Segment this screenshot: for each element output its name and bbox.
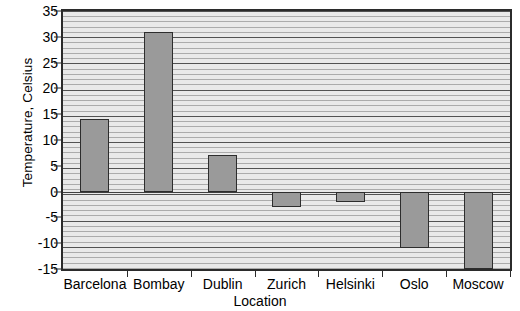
x-axis-tick-mark (382, 271, 383, 277)
y-axis-tick-mark (54, 165, 61, 166)
x-axis-tick-mark (191, 271, 192, 277)
y-axis-tick-mark (54, 191, 61, 192)
x-axis-tick-mark (127, 271, 128, 277)
y-axis-tick-label: -5 (18, 209, 58, 225)
y-axis-tick-label: 30 (18, 29, 58, 45)
bar (272, 192, 301, 207)
y-axis-tick-label: 25 (18, 55, 58, 71)
y-axis-tick-label: -15 (18, 261, 58, 277)
y-axis-tick-mark (54, 36, 61, 37)
y-axis-tick-mark (54, 88, 61, 89)
y-axis-tick-mark (54, 11, 61, 12)
y-axis-tick-label: 5 (18, 158, 58, 174)
y-axis-tick-mark (54, 269, 61, 270)
x-axis-tick-mark (255, 271, 256, 277)
y-axis-tick-mark (54, 114, 61, 115)
y-axis-tick-label: 10 (18, 132, 58, 148)
y-axis-tick-label: 20 (18, 80, 58, 96)
y-axis-tick-mark (54, 217, 61, 218)
y-axis-tick-label: 15 (18, 106, 58, 122)
x-axis-tick-label: Dublin (203, 276, 243, 292)
x-axis-title: Location (0, 293, 520, 309)
plot-area (61, 9, 512, 271)
y-axis-tick-label: 0 (18, 184, 58, 200)
y-axis-tick-mark (54, 62, 61, 63)
bar (208, 155, 237, 191)
bar (464, 192, 493, 269)
y-axis-tick-mark (54, 140, 61, 141)
x-axis-tick-mark (446, 271, 447, 277)
x-axis-tick-label: Moscow (452, 276, 503, 292)
bar (80, 119, 109, 191)
bar (144, 32, 173, 192)
x-axis-tick-label: Zurich (267, 276, 306, 292)
x-axis-tick-label: Oslo (400, 276, 429, 292)
bar-chart-figure: Temperature, Celsius Location 3530252015… (0, 0, 520, 311)
x-axis-tick-label: Helsinki (326, 276, 375, 292)
y-axis-tick-label: 35 (18, 3, 58, 19)
y-axis-tick-mark (54, 243, 61, 244)
bar (400, 192, 429, 249)
y-axis-tick-label: -10 (18, 235, 58, 251)
x-axis-tick-label: Barcelona (63, 276, 126, 292)
x-axis-tick-mark (318, 271, 319, 277)
x-axis-tick-label: Bombay (133, 276, 184, 292)
bar (336, 192, 365, 202)
x-axis-tick-mark (510, 271, 511, 277)
